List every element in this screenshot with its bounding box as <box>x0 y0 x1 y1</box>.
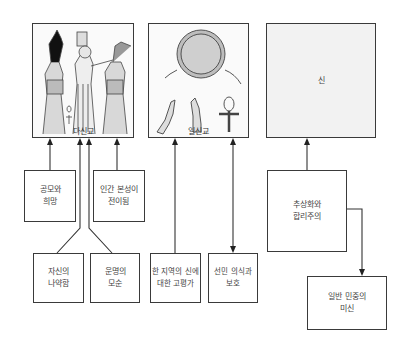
abstraction-box: 추상화와 합리주의 <box>267 170 347 252</box>
polytheism-box: 다신교 <box>32 23 134 138</box>
sun-disc-hands-ankh-illustration <box>149 24 248 137</box>
human-nature-label: 인간 본성이 전이됨 <box>100 184 138 208</box>
fate-box: 운명의 모순 <box>90 253 140 303</box>
fate-label: 운명의 모순 <box>105 266 126 290</box>
fear-hope-box: 공모와 희망 <box>24 170 76 222</box>
human-nature-box: 인간 본성이 전이됨 <box>93 170 145 222</box>
local-god-label: 한 지역의 신에 대한 고평가 <box>152 266 199 290</box>
superstition-label: 일반 민중의 미신 <box>328 291 366 315</box>
god-label: 신 <box>318 75 325 87</box>
superstition-box: 일반 민중의 미신 <box>307 276 387 330</box>
abstraction-label: 추상화와 합리주의 <box>293 199 321 223</box>
weakness-box: 자신의 나약함 <box>33 253 84 303</box>
egyptian-gods-illustration <box>33 24 133 137</box>
god-box: 신 <box>266 23 376 138</box>
monotheism-box: 일신교 <box>148 23 249 138</box>
chosen-label: 선민 의식과 보호 <box>214 266 251 290</box>
polytheism-label: 다신교 <box>33 125 133 136</box>
chosen-box: 선민 의식과 보호 <box>208 253 258 303</box>
weakness-label: 자신의 나약함 <box>48 266 69 290</box>
monotheism-label: 일신교 <box>149 125 248 136</box>
local-god-box: 한 지역의 신에 대한 고평가 <box>150 253 201 303</box>
fear-hope-label: 공모와 희망 <box>40 184 61 208</box>
